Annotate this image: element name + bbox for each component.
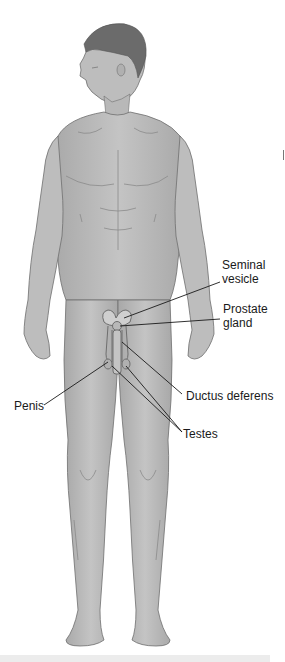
label-penis: Penis	[14, 399, 44, 413]
label-seminal-vesicle-line2: vesicle	[222, 272, 265, 286]
left-arm	[175, 136, 214, 359]
reproductive-organs	[103, 310, 132, 374]
label-seminal-vesicle-line1: Seminal	[222, 258, 265, 272]
label-ductus-deferens-text: Ductus deferens	[186, 389, 273, 403]
right-arm	[24, 136, 63, 359]
label-ductus-deferens: Ductus deferens	[186, 389, 273, 403]
label-seminal-vesicle: Seminal vesicle	[222, 258, 265, 286]
label-testes-text: Testes	[183, 427, 218, 441]
human-figure-illustration	[0, 0, 285, 662]
label-prostate-gland: Prostate gland	[223, 302, 268, 330]
right-leg	[64, 300, 118, 646]
torso	[52, 112, 187, 300]
label-prostate-gland-line1: Prostate	[223, 302, 268, 316]
margin-tick-mark	[283, 150, 284, 160]
label-testes: Testes	[183, 427, 218, 441]
bottom-strip	[0, 655, 270, 662]
label-penis-text: Penis	[14, 399, 44, 413]
left-leg	[118, 300, 172, 646]
label-prostate-gland-line2: gland	[223, 316, 268, 330]
head	[80, 24, 146, 104]
